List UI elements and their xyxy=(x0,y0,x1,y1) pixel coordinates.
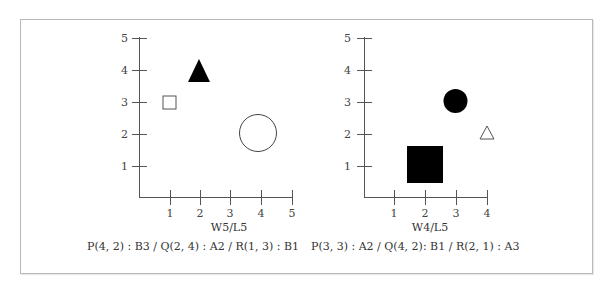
hollow-triangle-marker xyxy=(480,126,494,139)
right-x-tick-labels: 1 2 3 4 xyxy=(391,207,491,220)
left-y-tick-labels: 5 4 3 2 1 xyxy=(121,32,128,173)
solid-circle-marker xyxy=(444,89,468,113)
right-y-tick-labels: 5 4 3 2 1 xyxy=(344,32,351,173)
x-tick-label: 4 xyxy=(258,207,265,220)
y-tick-label: 5 xyxy=(121,32,128,45)
y-tick-label: 3 xyxy=(344,96,351,109)
y-tick-label: 4 xyxy=(344,64,351,77)
solid-square-marker xyxy=(407,146,443,183)
right-chart-title: W4/L5 xyxy=(400,221,460,234)
x-tick-label: 3 xyxy=(227,207,234,220)
y-tick-label: 2 xyxy=(344,128,351,141)
x-tick-label: 1 xyxy=(391,207,398,220)
y-tick-label: 1 xyxy=(344,160,351,173)
solid-triangle-marker xyxy=(188,59,210,82)
x-tick-label: 4 xyxy=(484,207,491,220)
x-tick-label: 2 xyxy=(197,207,204,220)
x-tick-label: 3 xyxy=(453,207,460,220)
hollow-circle-marker xyxy=(240,115,277,152)
left-chart-title: W5/L5 xyxy=(199,221,259,234)
x-tick-label: 2 xyxy=(422,207,429,220)
left-chart: 5 4 3 2 1 1 2 3 4 5 xyxy=(121,32,296,220)
left-x-tick-labels: 1 2 3 4 5 xyxy=(167,207,296,220)
y-tick-label: 2 xyxy=(121,128,128,141)
hollow-square-marker xyxy=(163,96,176,109)
y-tick-label: 4 xyxy=(121,64,128,77)
x-tick-label: 1 xyxy=(167,207,174,220)
y-tick-label: 5 xyxy=(344,32,351,45)
x-tick-label: 5 xyxy=(289,207,296,220)
y-tick-label: 3 xyxy=(121,96,128,109)
y-tick-label: 1 xyxy=(121,160,128,173)
right-chart: 5 4 3 2 1 1 2 3 4 xyxy=(344,32,494,220)
right-chart-caption: P(3, 3) : A2 / Q(4, 2): B1 / R(2, 1) : A… xyxy=(311,240,519,253)
left-chart-caption: P(4, 2) : B3 / Q(2, 4) : A2 / R(1, 3) : … xyxy=(87,240,299,253)
